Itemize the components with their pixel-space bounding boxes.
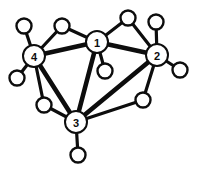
node-pendant-upper-left[interactable]	[17, 19, 32, 34]
node-pendant-bottom[interactable]	[71, 148, 86, 163]
node-bridge-lower-right-circle[interactable]	[136, 93, 151, 108]
node-bridge-top-right-circle[interactable]	[121, 11, 136, 26]
node-1-circle[interactable]	[86, 31, 108, 53]
node-bridge-top-left-circle[interactable]	[55, 19, 70, 34]
node-pendant-upper-right-circle[interactable]	[149, 15, 164, 30]
node-4-circle[interactable]	[23, 45, 45, 67]
node-bridge-top-right[interactable]	[121, 11, 136, 26]
node-3[interactable]: 3	[65, 111, 87, 133]
node-pendant-bottom-circle[interactable]	[71, 148, 86, 163]
node-4[interactable]: 4	[23, 45, 45, 67]
node-1[interactable]: 1	[86, 31, 108, 53]
node-pendant-right[interactable]	[173, 63, 188, 78]
node-pendant-right-circle[interactable]	[173, 63, 188, 78]
node-bridge-lower-left[interactable]	[37, 98, 52, 113]
node-pendant-upper-right[interactable]	[149, 15, 164, 30]
node-layer: 1234	[10, 11, 188, 163]
node-bridge-lower-left-circle[interactable]	[37, 98, 52, 113]
graph-diagram: 1234	[0, 0, 198, 172]
node-3-circle[interactable]	[65, 111, 87, 133]
node-pendant-upper-left-circle[interactable]	[17, 19, 32, 34]
graph-canvas: 1234	[0, 0, 198, 172]
node-pendant-center[interactable]	[98, 64, 113, 79]
node-bridge-top-left[interactable]	[55, 19, 70, 34]
node-pendant-center-circle[interactable]	[98, 64, 113, 79]
node-2-circle[interactable]	[146, 44, 168, 66]
node-2[interactable]: 2	[146, 44, 168, 66]
edge-2-3	[76, 55, 157, 122]
node-pendant-lower-left[interactable]	[10, 71, 25, 86]
node-pendant-lower-left-circle[interactable]	[10, 71, 25, 86]
node-bridge-lower-right[interactable]	[136, 93, 151, 108]
